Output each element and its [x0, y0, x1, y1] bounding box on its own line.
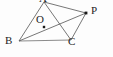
point-dot-o: [43, 26, 45, 28]
point-dot-p: [85, 12, 88, 15]
point-label-b: B: [5, 35, 12, 46]
segment-bp: [19, 13, 86, 41]
segment-bc: [19, 40, 71, 41]
point-label-c: C: [68, 36, 75, 47]
point-label-a: A: [39, 0, 47, 4]
point-label-o: O: [36, 14, 44, 25]
geometry-figure: A B C O P: [0, 0, 113, 57]
point-label-p: P: [91, 5, 97, 16]
